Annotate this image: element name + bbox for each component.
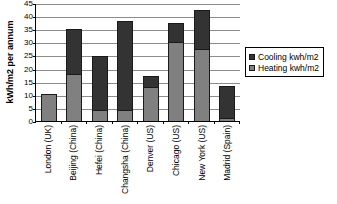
y-tick-label-45: 45 (24, 0, 33, 8)
x-axis-category: Denver (US) (138, 123, 164, 203)
bar-segment-heating[interactable] (194, 49, 210, 121)
x-axis-category: New York (US) (189, 123, 215, 203)
bar-slot (215, 4, 241, 121)
x-axis-category: Madrid (Spain) (214, 123, 240, 203)
y-tick-label-35: 35 (24, 26, 33, 34)
bar-slot (62, 4, 88, 121)
x-axis-category-label: Changsha (China) (120, 125, 129, 194)
bar-stack[interactable] (117, 21, 133, 121)
x-axis-category: Chicago (US) (163, 123, 189, 203)
bar-segment-heating[interactable] (41, 94, 57, 121)
legend-swatch-heating-icon (249, 65, 255, 71)
bar-segment-cooling[interactable] (168, 23, 184, 42)
x-axis-category: Beijing (China) (61, 123, 87, 203)
x-axis-category: London (UK) (35, 123, 61, 203)
legend-item-heating[interactable]: Heating kwh/m2 (249, 62, 319, 73)
y-axis-title-label: kWh/m2 per annum (4, 20, 14, 103)
bar-stack[interactable] (41, 94, 57, 121)
y-tick-label-20: 20 (24, 66, 33, 74)
x-axis-category: Changsha (China) (112, 123, 138, 203)
bar-segment-cooling[interactable] (219, 86, 235, 118)
bar-segment-heating[interactable] (219, 118, 235, 121)
bar-slot (36, 4, 62, 121)
x-axis-category-label: Denver (US) (146, 125, 155, 172)
x-axis-category: Hefei (China) (86, 123, 112, 203)
bar-slot (189, 4, 215, 121)
bar-slot (87, 4, 113, 121)
bar-segment-heating[interactable] (66, 74, 82, 121)
bar-slot (113, 4, 139, 121)
x-axis-category-label: Madrid (Spain) (223, 125, 232, 181)
bar-stack[interactable] (194, 10, 210, 121)
legend-label-cooling: Cooling kwh/m2 (258, 52, 318, 62)
bar-segment-cooling[interactable] (92, 56, 108, 110)
bar-slot (138, 4, 164, 121)
plot-area (35, 4, 240, 122)
bar-segment-heating[interactable] (117, 110, 133, 121)
chart-legend: Cooling kwh/m2 Heating kwh/m2 (245, 47, 324, 77)
y-tick-label-15: 15 (24, 79, 33, 87)
bar-segment-cooling[interactable] (143, 76, 159, 87)
bar-stack[interactable] (92, 56, 108, 121)
y-axis-tick-labels: 454035302520151050 (18, 4, 34, 122)
x-axis-category-label: Beijing (China) (69, 125, 78, 181)
bar-segment-heating[interactable] (92, 110, 108, 121)
x-axis-category-label: New York (US) (197, 125, 206, 181)
bar-slot (164, 4, 190, 121)
bar-segment-cooling[interactable] (194, 10, 210, 49)
bar-segment-heating[interactable] (143, 87, 159, 121)
x-axis-category-labels: London (UK)Beijing (China)Hefei (China)C… (35, 123, 240, 203)
bar-stack[interactable] (143, 76, 159, 121)
legend-swatch-cooling-icon (249, 54, 255, 60)
bars-layer (36, 4, 240, 121)
bar-stack[interactable] (219, 86, 235, 121)
y-axis-title: kWh/m2 per annum (0, 0, 18, 124)
bar-segment-heating[interactable] (168, 42, 184, 121)
x-axis-category-label: Hefei (China) (95, 125, 104, 175)
stacked-bar-chart: kWh/m2 per annum 454035302520151050 Lond… (0, 0, 337, 204)
y-tick-label-10: 10 (24, 92, 33, 100)
y-tick-label-25: 25 (24, 52, 33, 60)
y-tick-label-30: 30 (24, 39, 33, 47)
bar-stack[interactable] (168, 23, 184, 121)
y-tick-label-40: 40 (24, 13, 33, 21)
legend-item-cooling[interactable]: Cooling kwh/m2 (249, 51, 319, 62)
bar-stack[interactable] (66, 29, 82, 121)
legend-label-heating: Heating kwh/m2 (258, 63, 319, 73)
plot-wrapper: 454035302520151050 (18, 4, 240, 122)
x-axis-category-label: Chicago (US) (171, 125, 180, 176)
bar-segment-cooling[interactable] (66, 29, 82, 74)
x-axis-category-label: London (UK) (43, 125, 52, 173)
bar-segment-cooling[interactable] (117, 21, 133, 110)
